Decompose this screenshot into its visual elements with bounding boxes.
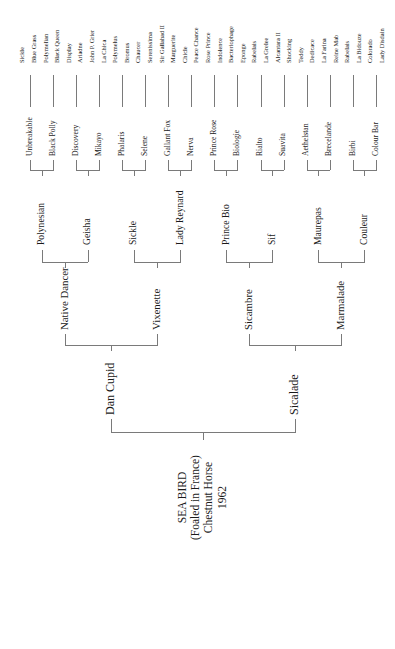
gen3-bracket-left	[226, 250, 227, 262]
gen3-bracket-right	[88, 250, 89, 262]
gen2-bracket-left	[249, 334, 250, 345]
ancestor-gen4-15: Colour Bar	[372, 122, 380, 156]
ancestor-gen5-3: Black Queen	[54, 30, 60, 63]
ancestor-gen4-9: Biologie	[233, 130, 241, 156]
subject-origin: (Foaled in France)	[190, 455, 203, 540]
ancestor-gen4-12: Aethelstan	[302, 124, 310, 156]
ancestor-gen5-16: Rose Prince	[205, 32, 211, 63]
ancestor-gen5-6: John P. Grier	[89, 30, 95, 63]
ancestor-gen5-17: Indolence	[217, 38, 223, 63]
gen5-pair-connector	[53, 75, 54, 107]
ancestor-gen5-9: Bromus	[124, 43, 130, 63]
gen3-bracket-stem	[341, 262, 342, 268]
gen5-pair-connector	[99, 75, 100, 107]
ancestor-gen2-0: Native Dancer	[59, 267, 70, 330]
ancestor-gen5-15: Peace Chance	[193, 27, 199, 63]
ancestor-gen3-4: Prince Bio	[221, 204, 231, 245]
subject-horse-label: SEA BIRD (Foaled in France) Chestnut Hor…	[176, 455, 229, 540]
gen5-pair-connector	[376, 75, 377, 107]
ancestor-gen2-3: Marmalade	[335, 281, 346, 330]
gen4-bracket-stem	[364, 170, 365, 176]
ancestor-gen5-0: Sickle	[19, 47, 25, 63]
gen2-bracket-right	[341, 334, 342, 345]
gen3-bracket-stem	[157, 262, 158, 268]
gen4-bracket-left	[261, 160, 262, 170]
ancestor-gen5-11: Serenissima	[147, 32, 153, 63]
gen5-pair-connector	[237, 75, 238, 107]
gen2-bracket-left	[65, 334, 66, 345]
gen1-bracket-right	[295, 419, 296, 432]
ancestor-gen3-5: Sif	[267, 234, 277, 245]
ancestor-gen4-2: Discovery	[72, 125, 80, 156]
ancestor-gen5-14: Chicle	[182, 46, 188, 63]
ancestor-gen5-8: Polymelus	[112, 36, 118, 63]
gen4-bracket-right	[330, 160, 331, 170]
ancestor-gen4-1: Black Polly	[49, 120, 57, 156]
gen1-bracket-stem	[203, 432, 204, 440]
ancestor-gen3-2: Sickle	[128, 221, 138, 245]
ancestor-gen5-23: Shocking	[286, 39, 292, 63]
ancestor-gen4-7: Nerva	[187, 137, 195, 156]
gen4-bracket-left	[122, 160, 123, 170]
ancestor-gen5-29: La Bidouze	[356, 33, 362, 63]
gen5-pair-connector	[214, 75, 215, 107]
ancestor-gen5-22: Alcantara II	[275, 32, 281, 63]
pedigree-chart: SEA BIRD (Foaled in France) Chestnut Hor…	[0, 0, 395, 649]
gen4-bracket-right	[191, 160, 192, 170]
gen4-bracket-right	[145, 160, 146, 170]
gen5-pair-connector	[168, 75, 169, 107]
gen4-bracket-stem	[134, 170, 135, 176]
ancestor-gen5-13: Marguerite	[170, 35, 176, 63]
gen3-bracket-right	[364, 250, 365, 262]
ancestor-gen3-6: Maurepas	[313, 207, 323, 245]
gen4-bracket-right	[53, 160, 54, 170]
ancestor-gen5-28: Rabelais	[344, 41, 350, 63]
ancestor-gen5-31: Lady Disdain	[379, 28, 385, 63]
gen5-pair-connector	[122, 75, 123, 107]
ancestor-gen4-13: Brecelande	[325, 122, 333, 156]
subject-year: 1962	[216, 455, 229, 540]
ancestor-gen4-14: Birbi	[349, 140, 357, 156]
ancestor-gen2-2: Sicambre	[243, 289, 254, 330]
gen2-bracket-stem	[111, 345, 112, 351]
gen5-pair-connector	[191, 75, 192, 107]
ancestor-gen4-4: Phalaris	[118, 132, 126, 156]
gen2-bracket-stem	[295, 345, 296, 351]
gen5-pair-connector	[30, 75, 31, 107]
ancestor-gen4-0: Unbreakable	[26, 117, 34, 156]
gen3-bracket-stem	[249, 262, 250, 268]
gen3-bracket-stem	[65, 262, 66, 268]
gen3-bracket-left	[318, 250, 319, 262]
gen5-pair-connector	[353, 75, 354, 107]
ancestor-gen4-11: Suavita	[279, 133, 287, 156]
ancestor-gen3-1: Geisha	[82, 218, 92, 245]
gen1-bracket-left	[111, 419, 112, 432]
gen4-bracket-stem	[272, 170, 273, 176]
ancestor-gen5-12: Sir Gallahad II	[159, 25, 165, 63]
ancestor-gen3-3: Lady Reynard	[175, 190, 185, 245]
gen3-bracket-left	[42, 250, 43, 262]
ancestor-gen5-5: Ariadne	[77, 42, 83, 63]
ancestor-gen5-26: La Farina	[321, 38, 327, 63]
ancestor-gen5-24: Teddy	[298, 47, 304, 63]
ancestor-gen5-30: Colorado	[367, 39, 373, 63]
subject-name: SEA BIRD	[176, 455, 189, 540]
gen4-bracket-left	[76, 160, 77, 170]
ancestor-gen5-18: Bacteriophage	[228, 26, 234, 63]
gen5-pair-connector	[76, 75, 77, 107]
gen4-bracket-left	[307, 160, 308, 170]
ancestor-gen5-27: Reine Mab	[333, 35, 339, 63]
ancestor-gen5-10: Chaucer	[135, 42, 141, 63]
ancestor-gen5-2: Polymelian	[43, 34, 49, 63]
gen3-bracket-right	[180, 250, 181, 262]
ancestor-gen5-1: Blue Grass	[31, 35, 37, 63]
gen4-bracket-left	[168, 160, 169, 170]
ancestor-gen3-0: Polynesian	[36, 203, 46, 245]
gen3-bracket-left	[134, 250, 135, 262]
gen4-bracket-stem	[180, 170, 181, 176]
gen4-bracket-right	[237, 160, 238, 170]
ancestor-gen5-4: Display	[66, 43, 72, 63]
ancestor-gen4-8: Prince Rose	[210, 120, 218, 157]
gen4-bracket-right	[284, 160, 285, 170]
ancestor-gen5-25: Dedicace	[309, 39, 315, 63]
